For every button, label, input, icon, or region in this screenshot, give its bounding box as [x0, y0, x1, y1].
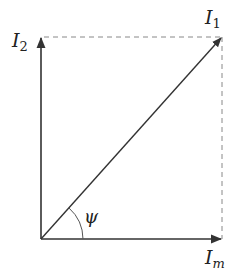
vector-i-1: [41, 38, 221, 239]
phasor-diagram: I2 I1 Im ψ: [0, 0, 250, 275]
label-i-1: I1: [204, 6, 221, 31]
angle-arc-psi: [69, 208, 83, 239]
label-i-2: I2: [11, 29, 28, 54]
label-psi: ψ: [84, 206, 99, 227]
label-i-m: Im: [204, 246, 225, 271]
